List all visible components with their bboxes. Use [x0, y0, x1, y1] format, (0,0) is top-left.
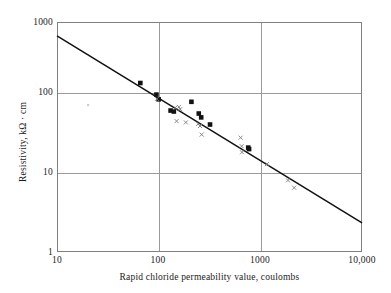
- data-point-x: [198, 124, 202, 128]
- y-tick-10: 10: [43, 167, 53, 177]
- x-axis-label: Rapid chloride permeability value, coulo…: [57, 272, 362, 282]
- y-tick-1000: 1000: [33, 17, 53, 27]
- data-overlay: [0, 0, 391, 293]
- data-point-x: [240, 144, 244, 148]
- scan-artifact-speck: [87, 104, 89, 106]
- y-axis-label: Resistivity, kΩ · cm: [18, 67, 28, 217]
- data-point-x: [286, 178, 290, 182]
- trendline: [57, 36, 362, 223]
- data-point-x: [292, 186, 296, 190]
- data-point-square: [189, 100, 194, 105]
- data-point-x: [240, 150, 244, 154]
- data-point-square: [208, 122, 213, 127]
- chart-figure: 1000 100 10 1 10 100 1000 10,000 Resisti…: [0, 0, 391, 293]
- x-tick-10000: 10,000: [348, 255, 375, 265]
- data-point-square: [172, 109, 177, 114]
- data-point-x: [184, 120, 188, 124]
- data-point-square: [154, 92, 159, 97]
- x-tick-1000: 1000: [250, 255, 270, 265]
- y-tick-100: 100: [38, 87, 53, 97]
- x-axis-ticks: 10 100 1000 10,000: [0, 255, 391, 271]
- data-point-square: [138, 81, 143, 86]
- data-point-square: [199, 115, 204, 120]
- x-tick-100: 100: [151, 255, 166, 265]
- data-point-x: [200, 133, 204, 137]
- data-point-square: [247, 147, 252, 152]
- data-point-x: [175, 119, 179, 123]
- data-point-x: [239, 136, 243, 140]
- x-tick-10: 10: [52, 255, 62, 265]
